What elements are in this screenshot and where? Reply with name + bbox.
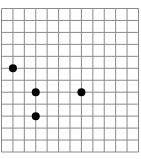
grid-dot-d (32, 112, 40, 120)
grid-dot-b (32, 88, 40, 96)
grid-dot-c (77, 88, 85, 96)
grid-diagram (0, 0, 141, 159)
grid-dot-a (9, 64, 17, 72)
